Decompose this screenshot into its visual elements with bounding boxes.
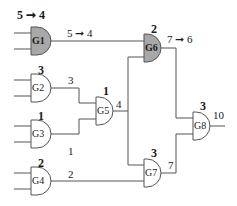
g2-top-label: 3	[38, 64, 44, 76]
g6-to-g8-wire	[160, 48, 193, 118]
g1-wire-label: 5 ➞ 4	[67, 28, 93, 39]
g6-wire-label: 7 ➞ 6	[167, 34, 193, 45]
g6-top-label: 2	[151, 23, 157, 35]
gate-name-g4: G4	[32, 176, 44, 186]
g4-wire-label: 2	[68, 169, 74, 180]
g2-wire-label: 3	[68, 75, 74, 86]
g3-to-g5-wire	[47, 119, 96, 134]
g1-top-label: 5 ➞ 4	[17, 9, 45, 21]
g8-top-label: 3	[200, 100, 206, 112]
g4-top-label: 2	[38, 157, 44, 169]
g3-wire-label: 1	[68, 146, 74, 157]
gate-name-g8: G8	[194, 121, 206, 131]
gate-name-g6: G6	[145, 43, 158, 53]
g5-branch-wire	[128, 57, 144, 165]
g3-top-label: 1	[38, 110, 44, 122]
gate-name-g5: G5	[97, 106, 109, 116]
gate-name-g3: G3	[32, 129, 44, 139]
gate-name-g7: G7	[145, 168, 157, 178]
g7-to-g8-wire	[160, 134, 193, 173]
g7-wire-label: 7	[168, 160, 174, 171]
gate-name-g2: G2	[32, 83, 44, 93]
g8-wire-label: 10	[213, 110, 224, 121]
g5-wire-label: 4	[116, 99, 122, 110]
g2-to-g5-wire	[47, 88, 96, 103]
gate-name-g1: G1	[32, 36, 45, 46]
g5-top-label: 1	[103, 85, 109, 97]
g7-top-label: 3	[151, 147, 157, 159]
